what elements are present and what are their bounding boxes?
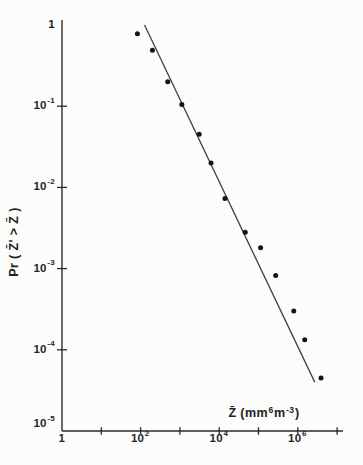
tick-exponent: 4 [223, 430, 228, 438]
y-tick-label: 10-2 [33, 182, 55, 194]
y-tick-label: 1 [48, 19, 55, 31]
x-tick-label: 1 [59, 433, 66, 445]
tick-exponent: 6 [302, 430, 307, 438]
tick-text: 10 [33, 100, 46, 112]
tick-text: 10 [131, 433, 144, 445]
x-tick-label: 102 [131, 433, 150, 445]
y-tick-label: 10-3 [33, 263, 55, 275]
tick-exponent: -2 [47, 178, 55, 186]
y-axis-title-text: Pr ( Z̄' > Z̄ ) [8, 207, 21, 277]
x-axis-title: Z̄ (mm6m-3) [228, 407, 299, 420]
tick-text: 10 [33, 344, 46, 356]
tick-text: 10 [288, 433, 301, 445]
x-tick-label: 104 [209, 433, 228, 445]
tick-text: 10 [33, 263, 46, 275]
tick-text: 1 [48, 19, 55, 31]
x-axis-title-exponent: -3 [286, 405, 294, 415]
y-tick-label: 10-5 [33, 418, 55, 430]
tick-exponent: -4 [47, 341, 55, 349]
scatter-plot-figure: 110-110-210-310-410-51102104106 Pr ( Z̄'… [0, 0, 363, 465]
tick-text: 1 [59, 433, 66, 445]
tick-text: 10 [33, 182, 46, 194]
tick-exponent: 2 [145, 430, 150, 438]
tick-text: 10 [209, 433, 222, 445]
x-axis-title-text: m [274, 406, 286, 420]
x-axis-title-text: Z̄ (mm [228, 406, 268, 420]
x-axis-title-text: ) [295, 406, 300, 420]
x-tick-label: 106 [288, 433, 307, 445]
x-axis-title-exponent: 6 [268, 405, 273, 415]
tick-exponent: -5 [47, 415, 55, 423]
tick-text: 10 [33, 418, 46, 430]
y-tick-label: 10-4 [33, 344, 55, 356]
tick-exponent: -3 [47, 259, 55, 267]
tick-label-layer: 110-110-210-310-410-51102104106 [0, 0, 363, 465]
tick-exponent: -1 [47, 97, 55, 105]
y-tick-label: 10-1 [33, 100, 55, 112]
